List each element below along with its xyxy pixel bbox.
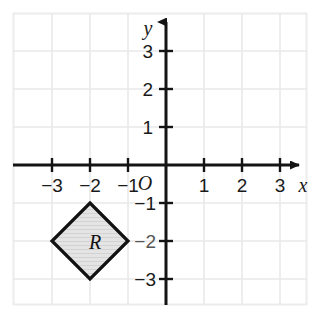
y-tick-label-2: 2	[142, 79, 153, 100]
x-tick-label-neg2: −2	[79, 175, 101, 196]
x-tick-label-2: 2	[237, 175, 248, 196]
y-axis-label: y	[142, 17, 153, 40]
x-tick-label-1: 1	[199, 175, 210, 196]
x-axis-label: x	[298, 174, 308, 196]
figure-background	[0, 0, 320, 318]
coordinate-plane-figure: −3 −2 −1 1 2 3 3 2 1 −1 −2 −3 O x y R	[0, 0, 320, 318]
y-tick-label-neg3: −3	[134, 269, 156, 290]
y-tick-label-neg1: −1	[134, 193, 156, 214]
x-tick-label-3: 3	[275, 175, 286, 196]
y-tick-label-1: 1	[142, 117, 153, 138]
x-tick-label-neg3: −3	[41, 175, 63, 196]
coordinate-plane-svg: −3 −2 −1 1 2 3 3 2 1 −1 −2 −3 O x y R	[0, 0, 320, 318]
y-tick-label-neg2: −2	[134, 231, 156, 252]
shape-label-r: R	[88, 231, 101, 253]
origin-label: O	[138, 172, 152, 194]
y-tick-label-3: 3	[142, 41, 153, 62]
